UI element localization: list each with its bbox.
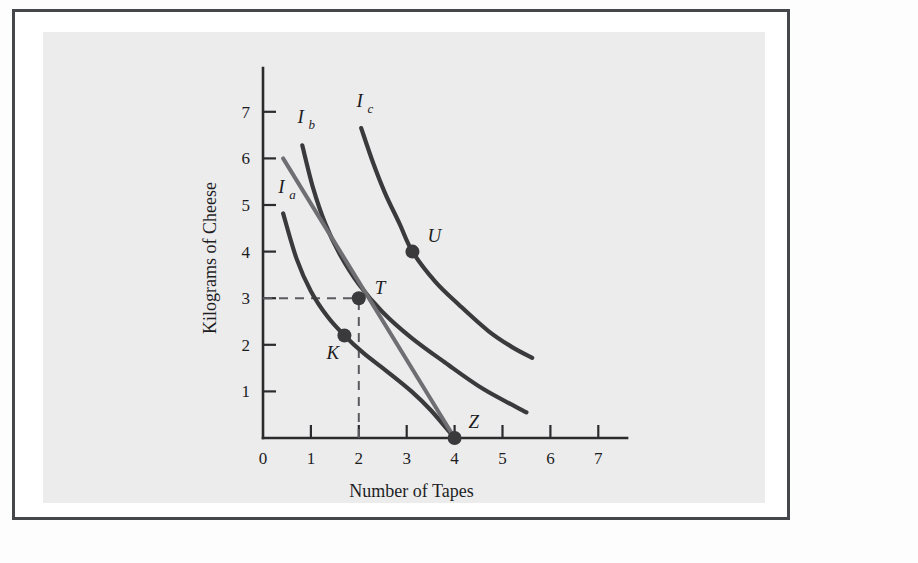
page-background: 123456701234567 IaIbIc KTUZ Number of Ta… [0, 0, 918, 563]
figure-frame [12, 9, 790, 520]
plot-panel [43, 32, 765, 503]
